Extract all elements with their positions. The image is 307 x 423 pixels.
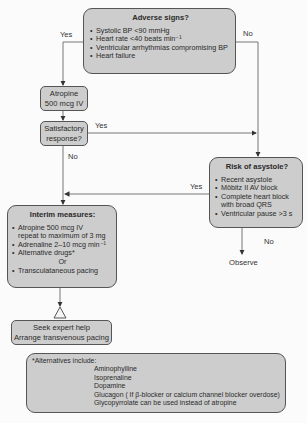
atropine-box: Atropine 500 mcg IV [40, 86, 88, 111]
expert-line2: Arrange transvenous pacing [12, 333, 111, 343]
adverse-signs-box: Adverse signs? Systolic BP <90 mmHg Hear… [83, 8, 236, 74]
adverse-no-label: No [243, 29, 253, 38]
alternative-item: Isoprenaline [94, 374, 282, 382]
satisfactory-line1: Satisfactory [41, 124, 87, 134]
risk-yes-label: Yes [190, 182, 202, 191]
risk-title: Risk of asystole? [215, 163, 299, 172]
interim-item: Alternative drugs* [12, 249, 113, 258]
atropine-line1: Atropine [41, 89, 87, 99]
adverse-sign-item: Heart failure [90, 52, 231, 61]
satisfactory-no-label: No [68, 152, 78, 161]
risk-of-asystole-box: Risk of asystole? Recent asystole Möbitz… [209, 157, 303, 228]
alternative-item: Glycopyrrolate can be used instead of at… [94, 399, 282, 407]
interim-item: Transculataneous pacing [12, 267, 113, 276]
risk-item: Ventricular pause >3 s [215, 210, 299, 219]
expert-line1: Seek expert help [12, 323, 111, 333]
alternatives-heading: *Alternatives include: [32, 357, 282, 365]
satisfactory-yes-label: Yes [95, 121, 107, 130]
interim-title: Interim measures: [12, 211, 113, 220]
seek-expert-help-box: Seek expert help Arrange transvenous pac… [11, 320, 112, 345]
alternative-item: Glucagon ( If β-blocker or calcium chann… [94, 391, 282, 399]
observe-label: Observe [229, 258, 258, 267]
alternatives-box: *Alternatives include: Aminophylline Iso… [26, 353, 286, 413]
warning-triangle-icon [54, 307, 66, 318]
interim-measures-box: Interim measures: Atropine 500 mcg IV re… [7, 205, 117, 288]
adverse-yes-label: Yes [60, 30, 72, 39]
risk-no-label: No [264, 237, 274, 246]
adverse-signs-title: Adverse signs? [90, 14, 231, 23]
alternative-item: Aminophylline [94, 365, 282, 373]
satisfactory-response-box: Satisfactory response? [40, 121, 88, 146]
satisfactory-line2: response? [41, 134, 87, 144]
alternative-item: Dopamine [94, 382, 282, 390]
atropine-line2: 500 mcg IV [41, 99, 87, 109]
